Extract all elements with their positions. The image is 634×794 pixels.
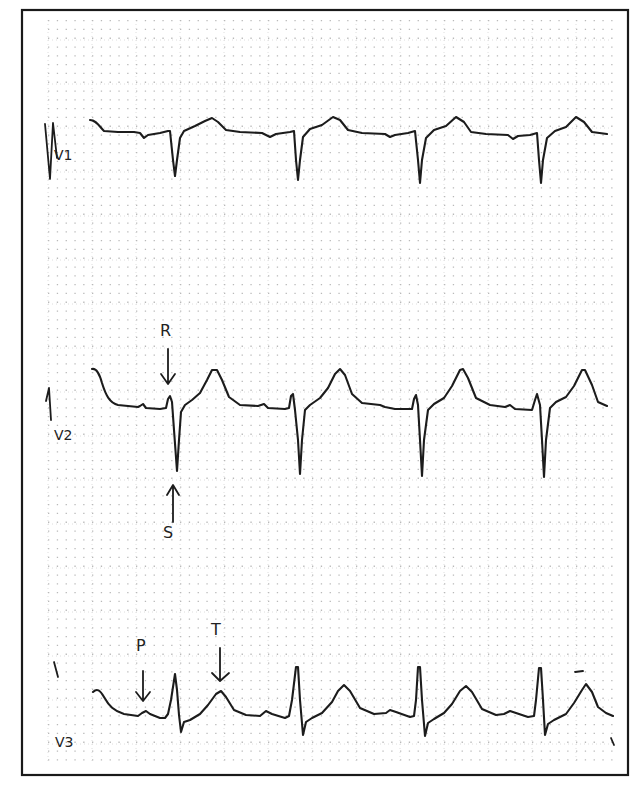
tick-mark <box>611 738 614 745</box>
ecg-figure: V1 V2 V3 R S P T <box>0 0 634 794</box>
annotation-r: R <box>160 321 175 384</box>
annotation-p: P <box>136 636 150 701</box>
calibration-mark-v2 <box>46 388 51 420</box>
lead-label-v2: V2 <box>54 427 72 443</box>
arrow-down-icon <box>212 648 229 681</box>
arrow-down-icon <box>136 671 150 701</box>
annotation-s-label: S <box>163 523 173 542</box>
annotation-s: S <box>163 485 179 542</box>
dash-mark <box>575 671 583 672</box>
annotation-p-label: P <box>136 636 146 655</box>
lead-v3: V3 <box>54 662 613 750</box>
lead-label-v1: V1 <box>54 147 72 163</box>
annotation-t-label: T <box>210 620 221 639</box>
arrow-up-icon <box>167 485 179 522</box>
annotation-r-label: R <box>160 321 171 340</box>
lead-v2: V2 <box>46 369 607 477</box>
arrow-down-icon <box>161 349 175 384</box>
calibration-mark-v3 <box>54 662 58 677</box>
ecg-trace-v2 <box>92 369 607 477</box>
annotation-t: T <box>210 620 229 681</box>
ecg-canvas: V1 V2 V3 R S P T <box>0 0 634 794</box>
lead-label-v3: V3 <box>55 734 73 750</box>
lead-v1: V1 <box>45 117 607 183</box>
ecg-trace-v3 <box>93 667 613 736</box>
